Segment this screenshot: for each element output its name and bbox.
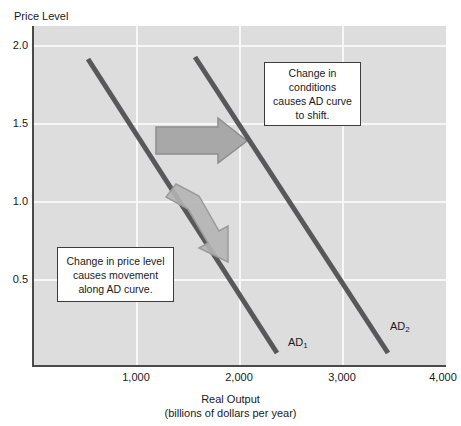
x-tick-label-3000: 3,000 — [328, 371, 356, 383]
chart-figure: Price Level 2.0 1.5 1.0 0.5 1,000 2,000 … — [0, 0, 461, 426]
ad1-curve-label: AD1 — [288, 336, 308, 348]
movement-callout: Change in price level causes movement al… — [57, 247, 174, 302]
x-tick-label-2000: 2,000 — [225, 371, 253, 383]
ad2-curve-label: AD2 — [390, 320, 410, 332]
shift-callout: Change in conditions causes AD curve to … — [264, 62, 361, 126]
x-axis-caption: Real Output (billions of dollars per yea… — [0, 392, 461, 420]
ad1-label-subscript: 1 — [303, 341, 307, 350]
x-axis-subtitle: (billions of dollars per year) — [0, 406, 461, 420]
ad2-label-subscript: 2 — [405, 325, 409, 334]
x-axis-title: Real Output — [0, 392, 461, 406]
ad1-label-text: AD — [288, 336, 303, 348]
ad2-label-text: AD — [390, 320, 405, 332]
x-axis-tick-labels: 1,000 2,000 3,000 4,000 — [0, 0, 461, 426]
x-tick-label-4000: 4,000 — [429, 371, 457, 383]
x-tick-label-1000: 1,000 — [122, 371, 150, 383]
